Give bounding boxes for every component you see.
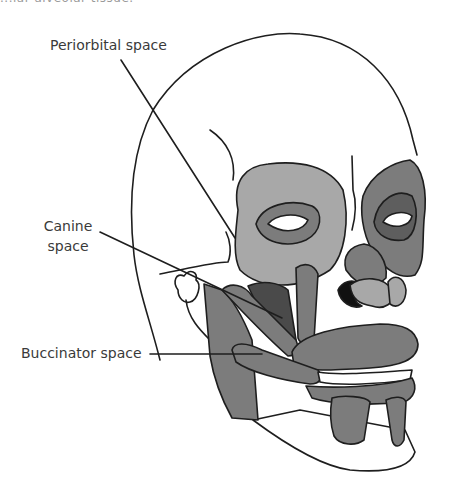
label-canine-line-2: space — [38, 236, 98, 256]
temporal-line — [210, 130, 234, 180]
nasal-line — [352, 156, 355, 230]
label-canine-line-1: Canine — [38, 216, 98, 236]
mentalis-right — [331, 396, 370, 444]
mucosa-left — [388, 277, 406, 306]
label-buccinator-space: Buccinator space — [21, 343, 142, 363]
levator-strip — [296, 265, 318, 344]
label-periorbital-space: Periorbital space — [50, 35, 167, 55]
zygomatic-arch — [160, 232, 230, 274]
label-canine-space: Canine space — [38, 216, 98, 256]
